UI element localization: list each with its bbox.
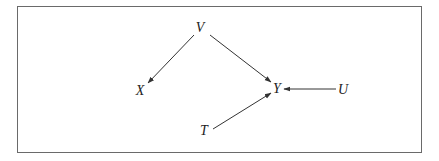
edge-v-to-y	[210, 35, 271, 82]
causal-graph: V X Y U T	[0, 0, 439, 161]
node-v: V	[196, 20, 206, 35]
node-t: T	[200, 123, 209, 138]
node-y: Y	[273, 81, 283, 96]
node-x: X	[135, 83, 145, 98]
edge-v-to-x	[148, 35, 194, 83]
node-u: U	[338, 82, 349, 97]
edge-t-to-y	[213, 93, 271, 129]
